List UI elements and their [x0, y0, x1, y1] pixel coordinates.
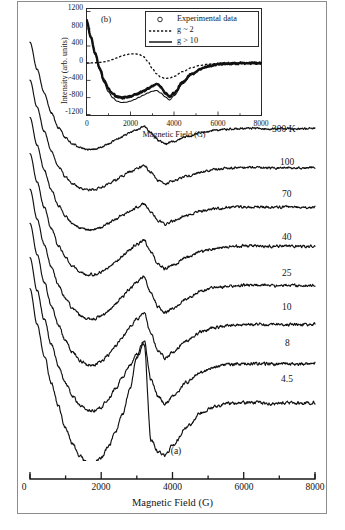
main-xtick-4000: 4000: [163, 482, 182, 492]
inset-ytick-400: 400: [72, 38, 83, 47]
trace-label-25: 25: [282, 268, 292, 278]
main-xtick-6000: 6000: [235, 482, 254, 492]
legend-circle-marker: [158, 17, 163, 22]
spectrum-trace: [30, 289, 315, 465]
inset-ytick-800: 800: [72, 21, 83, 30]
main-xtick-0: 0: [22, 482, 27, 492]
trace-label-100: 100: [280, 157, 294, 167]
inset-ytick-neg800: -800: [69, 90, 83, 99]
inset-x-ticks: [87, 112, 262, 116]
main-xaxis-title: Magnetic Field (G): [132, 497, 213, 508]
spectrum-trace: [30, 189, 315, 320]
inset-xtick-8000: 8000: [253, 119, 268, 128]
figure-root: 0 2000 4000 6000 8000 Magnetic Field (G)…: [0, 0, 345, 530]
inset-ytick-1200: 1200: [68, 3, 83, 12]
legend-label-g2: g ~ 2: [177, 25, 194, 34]
trace-label-10: 10: [282, 302, 292, 312]
inset-legend: Experimental data g ~ 2 g > 10: [145, 11, 259, 47]
trace-label-4p5: 4.5: [281, 374, 293, 384]
inset-xtick-4000: 4000: [166, 119, 181, 128]
inset-xaxis-title: Magnetic Field (G): [142, 130, 205, 139]
inset-ytick-neg400: -400: [69, 73, 83, 82]
inset-xtick-2000: 2000: [123, 119, 138, 128]
panel-a-tag: (a): [171, 446, 182, 456]
legend-label-experimental: Experimental data: [177, 14, 237, 23]
inset-yaxis-title: Intensity (arb. units): [60, 37, 69, 104]
panel-b-tag: (b): [101, 14, 111, 24]
inset-trace: [87, 54, 262, 79]
main-xtick-2000: 2000: [92, 482, 111, 492]
trace-label-300k: 300 K: [272, 124, 296, 134]
trace-label-40: 40: [282, 232, 292, 242]
inset-xtick-6000: 6000: [210, 119, 225, 128]
legend-label-g10: g > 10: [177, 36, 198, 45]
trace-label-8: 8: [285, 338, 290, 348]
spectrum-trace: [30, 258, 315, 412]
main-x-axis: [30, 472, 315, 479]
inset-ytick-neg1200: -1200: [65, 107, 83, 116]
inset-ytick-0: 0: [79, 56, 83, 65]
trace-label-70: 70: [282, 189, 292, 199]
main-xtick-8000: 8000: [306, 482, 325, 492]
inset-xtick-0: 0: [85, 119, 89, 128]
spectrum-trace: [30, 223, 315, 366]
spectrum-trace: [30, 154, 315, 276]
